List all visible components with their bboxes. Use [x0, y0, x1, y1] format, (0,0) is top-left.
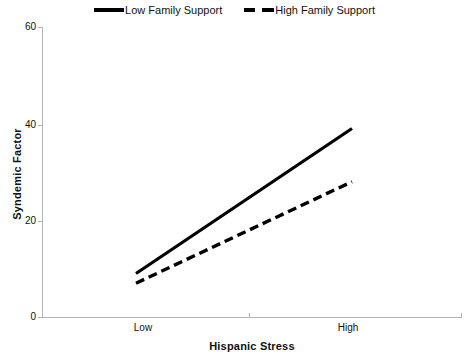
series-lines — [0, 0, 469, 360]
plot-area: 60 40 20 0 Low High Syndemic Factor Hisp… — [0, 0, 469, 360]
y-axis-title: Syndemic Factor — [11, 109, 23, 239]
chart-figure: Low Family Support High Family Support 6… — [0, 0, 469, 360]
series-line-low-family-support — [136, 129, 352, 274]
x-axis-title: Hispanic Stress — [42, 340, 462, 352]
series-line-high-family-support — [136, 182, 352, 284]
